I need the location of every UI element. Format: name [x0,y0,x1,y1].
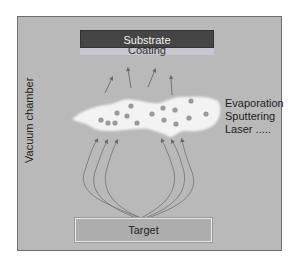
deposition-methods: Evaporation Sputtering Laser ..... [225,97,284,136]
deposition-arrows [105,69,172,95]
vapor-cloud [72,97,220,137]
coating-label: Coating [128,44,166,56]
coating-layer: Coating [80,48,214,55]
method-evaporation: Evaporation [225,97,284,110]
method-laser: Laser ..... [225,123,284,136]
target-block: Target [75,218,212,242]
emission-arrows [83,140,193,218]
method-sputtering: Sputtering [225,110,284,123]
